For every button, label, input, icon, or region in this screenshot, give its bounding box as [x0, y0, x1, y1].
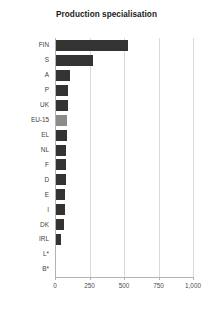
- y-axis-category-labels: FINSAPUKEU-15ELNLFDEIDKIRLL*B*: [0, 38, 52, 277]
- bar-fin[interactable]: [55, 40, 128, 51]
- x-axis-tick-label-750: 750: [153, 283, 164, 289]
- y-axis-label-l: L*: [43, 251, 49, 257]
- bar-dk[interactable]: [55, 219, 64, 230]
- bars-container: [55, 38, 193, 277]
- x-axis-tick-mark: [193, 277, 194, 280]
- y-axis-label-row: IRL: [0, 232, 52, 247]
- y-axis-label-nl: NL: [41, 147, 49, 153]
- y-axis-label-dk: DK: [40, 222, 49, 228]
- y-axis-label-e: E: [45, 192, 49, 198]
- y-axis-label-row: UK: [0, 98, 52, 113]
- bar-i[interactable]: [55, 204, 65, 215]
- bar-p[interactable]: [55, 85, 68, 96]
- bar-uk[interactable]: [55, 100, 68, 111]
- bar-row: [55, 68, 193, 83]
- bar-s[interactable]: [55, 55, 93, 66]
- y-axis-label-row: B*: [0, 262, 52, 277]
- bar-row: [55, 247, 193, 262]
- chart-title: Production specialisation: [0, 10, 213, 19]
- y-axis-label-uk: UK: [40, 102, 49, 108]
- y-axis-label-row: A: [0, 68, 52, 83]
- y-axis-label-eu-15: EU-15: [31, 117, 49, 123]
- bar-row: [55, 83, 193, 98]
- y-axis-label-b: B*: [42, 266, 49, 272]
- y-axis-label-row: DK: [0, 217, 52, 232]
- y-axis-label-row: L*: [0, 247, 52, 262]
- bar-row: [55, 98, 193, 113]
- y-axis-label-row: P: [0, 83, 52, 98]
- y-axis-label-p: P: [45, 87, 49, 93]
- bar-nl[interactable]: [55, 145, 66, 156]
- bar-row: [55, 172, 193, 187]
- y-axis-label-row: I: [0, 202, 52, 217]
- x-axis-tick-label-1000: 1,000: [185, 283, 201, 289]
- bar-row: [55, 128, 193, 143]
- bar-row: [55, 158, 193, 173]
- bar-row: [55, 143, 193, 158]
- y-axis-label-irl: IRL: [39, 236, 49, 242]
- y-axis-label-row: E: [0, 187, 52, 202]
- y-axis-label-d: D: [44, 177, 49, 183]
- x-axis-tick-label-0: 0: [53, 283, 57, 289]
- y-axis-label-fin: FIN: [39, 42, 49, 48]
- y-axis-label-a: A: [45, 72, 49, 78]
- bar-f[interactable]: [55, 159, 66, 170]
- plot-area: [55, 38, 193, 277]
- x-axis-tick-mark: [90, 277, 91, 280]
- y-axis-label-row: NL: [0, 143, 52, 158]
- bar-a[interactable]: [55, 70, 70, 81]
- bar-row: [55, 202, 193, 217]
- bar-d[interactable]: [55, 174, 66, 185]
- bar-row: [55, 217, 193, 232]
- y-axis-label-row: S: [0, 53, 52, 68]
- bar-el[interactable]: [55, 130, 67, 141]
- y-axis-label-row: FIN: [0, 38, 52, 53]
- y-axis-label-row: EL: [0, 128, 52, 143]
- x-axis-tick-label-500: 500: [119, 283, 130, 289]
- x-axis-tick-mark: [124, 277, 125, 280]
- bar-row: [55, 187, 193, 202]
- bar-row: [55, 38, 193, 53]
- x-axis-tick-label-250: 250: [84, 283, 95, 289]
- y-axis-label-f: F: [45, 162, 49, 168]
- bar-row: [55, 53, 193, 68]
- bar-e[interactable]: [55, 189, 65, 200]
- production-specialisation-chart: Production specialisation FINSAPUKEU-15E…: [0, 0, 213, 316]
- y-axis-label-row: D: [0, 172, 52, 187]
- y-axis-label-el: EL: [41, 132, 49, 138]
- bar-row: [55, 232, 193, 247]
- gridline-0: [55, 38, 56, 277]
- bar-row: [55, 113, 193, 128]
- gridline-1000: [193, 38, 194, 277]
- y-axis-label-i: I: [47, 207, 49, 213]
- bar-eu-15[interactable]: [55, 115, 67, 126]
- y-axis-label-row: EU-15: [0, 113, 52, 128]
- x-axis-tick-mark: [55, 277, 56, 280]
- bar-row: [55, 262, 193, 277]
- y-axis-label-row: F: [0, 158, 52, 173]
- x-axis-tick-mark: [159, 277, 160, 280]
- y-axis-label-s: S: [45, 57, 49, 63]
